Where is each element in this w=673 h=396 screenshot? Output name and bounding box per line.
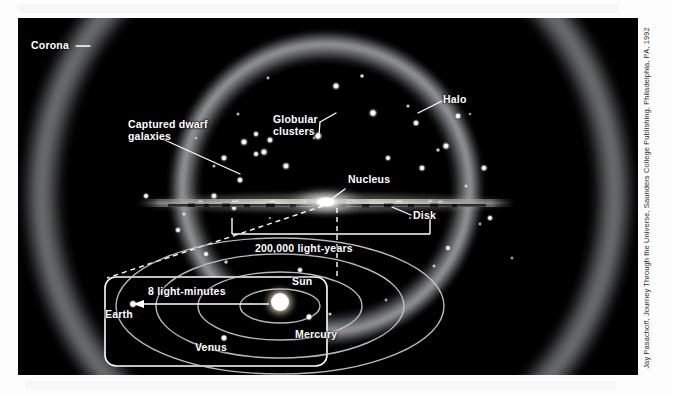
image-credit: Jay Pasachoff, Journey Through the Unive… bbox=[642, 27, 651, 368]
paper-texture-top bbox=[18, 4, 618, 13]
venus-body bbox=[220, 334, 229, 343]
galaxy-figure-plate: Corona Captured dwarf galaxies Globular … bbox=[18, 18, 638, 375]
mercury-body bbox=[305, 313, 314, 322]
galaxy-illustration bbox=[18, 18, 638, 375]
figure-page: Corona Captured dwarf galaxies Globular … bbox=[0, 0, 673, 396]
paper-texture-bottom bbox=[26, 381, 616, 390]
sun-body bbox=[262, 284, 298, 320]
